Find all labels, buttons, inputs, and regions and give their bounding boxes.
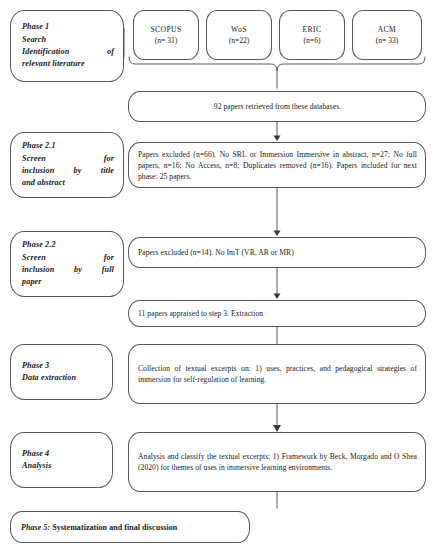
screen-full-paper-text: Papers excluded (n=14). No ImT (VR, AR o… — [138, 247, 417, 258]
retrieved-papers-text: 92 papers retrieved from these databases… — [138, 101, 417, 112]
phase-2-1-label-box: Phase 2.1 Screen for inclusion by title … — [10, 132, 124, 198]
phase-5-final-text: Phase 5: Systematization and final discu… — [21, 523, 177, 532]
database-wos-text: WoS (n=22) — [207, 24, 271, 47]
phase-4-label-box: Phase 4 Analysis — [10, 432, 113, 488]
database-box-wos: WoS (n=22) — [206, 10, 272, 60]
database-wos-count: (n=22) — [207, 35, 271, 46]
data-extraction-text: Collection of textual excerpts on: 1) us… — [138, 363, 417, 385]
appraised-papers-text: 11 papers appraised to step 3. Extractio… — [138, 308, 417, 319]
database-box-eric: ERIC (n=6) — [279, 10, 345, 60]
database-eric-count: (n=6) — [280, 35, 344, 46]
screen-full-paper-box: Papers excluded (n=14). No ImT (VR, AR o… — [128, 237, 426, 268]
phase-3-line-1: Phase 3 — [22, 360, 103, 372]
phase-2-2-label-text: Phase 2.2 Screen for inclusion by full p… — [22, 239, 114, 289]
phase-2-2-line-2: Screen for — [22, 252, 114, 264]
arrow-head-3 — [274, 294, 281, 300]
phase-2-1-line-3: inclusion by title — [22, 165, 114, 177]
phase-1-line-2: Search — [22, 34, 114, 46]
database-eric-text: ERIC (n=6) — [280, 24, 344, 47]
database-wos-name: WoS — [207, 24, 271, 35]
phase-2-2-line-4: paper — [22, 276, 114, 288]
phase-3-label-text: Phase 3 Data extraction — [22, 360, 103, 385]
arrow-head-2 — [274, 231, 281, 237]
phase-2-2-line-3: inclusion by full — [22, 264, 114, 276]
phase-1-label-text: Phase 1 Search Identification of relevan… — [22, 21, 114, 71]
database-scopus-text: SCOPUS (n= 31) — [134, 24, 198, 47]
database-box-scopus: SCOPUS (n= 31) — [133, 10, 199, 60]
phase-1-line-4: relevant literature — [22, 58, 114, 70]
arrow-head-5 — [273, 425, 281, 432]
database-acm-text: ACM (n= 33) — [353, 24, 421, 47]
phase-1-line-3: Identification of — [22, 46, 114, 58]
phase-2-1-line-2: Screen for — [22, 153, 114, 165]
data-extraction-box: Collection of textual excerpts on: 1) us… — [128, 344, 426, 404]
analysis-text: Analysis and classify the textual excerp… — [138, 451, 417, 473]
phase-1-label-box: Phase 1 Search Identification of relevan… — [10, 10, 124, 82]
database-scopus-count: (n= 31) — [134, 35, 198, 46]
phase-2-2-label-box: Phase 2.2 Screen for inclusion by full p… — [10, 231, 124, 297]
arrow-head-1 — [274, 136, 281, 142]
appraised-papers-box: 11 papers appraised to step 3. Extractio… — [128, 300, 426, 327]
phase-4-line-2: Analysis — [22, 460, 103, 472]
prisma-flowchart: Phase 1 Search Identification of relevan… — [0, 0, 434, 559]
database-acm-name: ACM — [353, 24, 421, 35]
database-box-acm: ACM (n= 33) — [352, 10, 422, 60]
screen-title-abstract-box: Papers excluded (n=66). No SRL or Immers… — [128, 142, 426, 188]
phase-5-rest: Systematization and final discussion — [50, 523, 177, 532]
phase-4-label-text: Phase 4 Analysis — [22, 448, 103, 473]
phase-3-label-box: Phase 3 Data extraction — [10, 344, 113, 400]
phase-5-lead: Phase 5: — [21, 523, 50, 532]
database-acm-count: (n= 33) — [353, 35, 421, 46]
phase-2-2-line-1: Phase 2.2 — [22, 239, 114, 251]
analysis-box: Analysis and classify the textual excerp… — [128, 432, 426, 492]
phase-4-line-1: Phase 4 — [22, 448, 103, 460]
database-scopus-name: SCOPUS — [134, 24, 198, 35]
phase-2-1-line-4: and abstract — [22, 177, 114, 189]
phase-2-1-line-1: Phase 2.1 — [22, 140, 114, 152]
retrieved-papers-box: 92 papers retrieved from these databases… — [128, 91, 426, 122]
screen-title-abstract-text: Papers excluded (n=66). No SRL or Immers… — [138, 149, 417, 182]
phase-2-1-label-text: Phase 2.1 Screen for inclusion by title … — [22, 140, 114, 190]
phase-3-line-2: Data extraction — [22, 372, 103, 384]
phase-1-line-1: Phase 1 — [22, 21, 114, 33]
phase-5-final-box: Phase 5: Systematization and final discu… — [10, 511, 250, 543]
database-eric-name: ERIC — [280, 24, 344, 35]
